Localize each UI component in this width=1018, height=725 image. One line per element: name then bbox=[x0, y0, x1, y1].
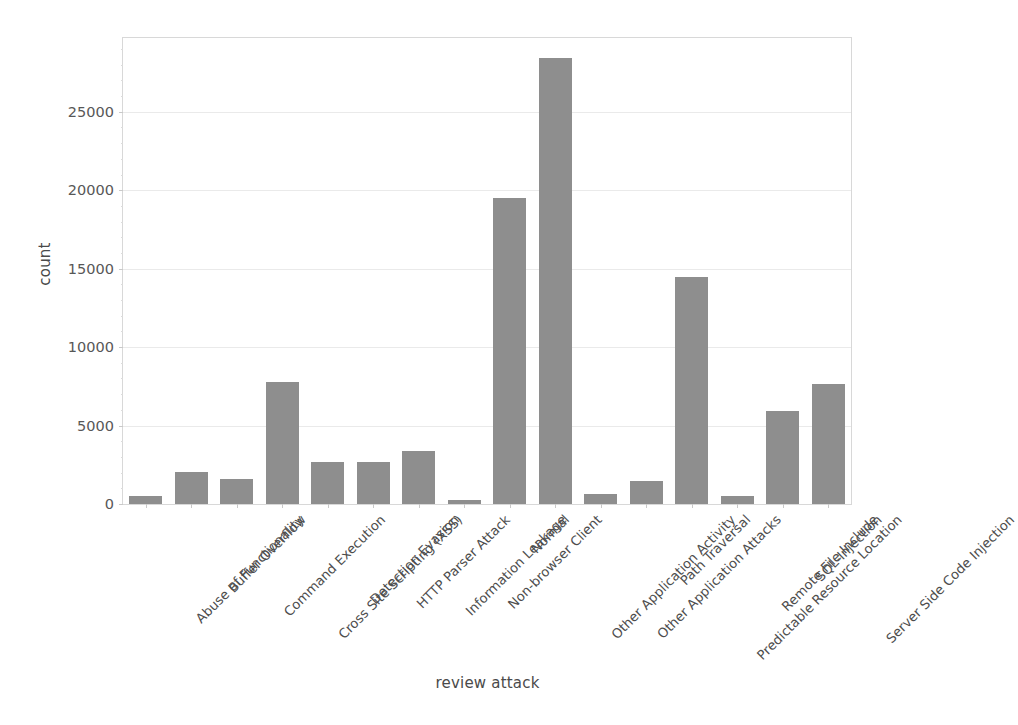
bar[interactable] bbox=[584, 494, 617, 504]
x-axis-tick-label-text: Buffer Overflow bbox=[225, 512, 309, 596]
y-axis-minor-tick bbox=[121, 253, 123, 254]
bar[interactable] bbox=[721, 496, 754, 504]
y-axis-minor-tick bbox=[121, 127, 123, 128]
y-axis-minor-tick bbox=[121, 159, 123, 160]
y-axis-tick-label: 5000 bbox=[77, 418, 114, 434]
x-axis-tick-label-text: Predictable Resource Location bbox=[754, 512, 905, 663]
bar[interactable] bbox=[129, 496, 162, 504]
bar[interactable] bbox=[357, 462, 390, 504]
y-axis-minor-tick bbox=[121, 49, 123, 50]
bar[interactable] bbox=[175, 472, 208, 504]
y-axis-tick-label: 15000 bbox=[68, 261, 114, 277]
x-axis-tick bbox=[646, 504, 647, 508]
x-axis-tick bbox=[828, 504, 829, 508]
y-axis-minor-tick bbox=[121, 143, 123, 144]
gridline bbox=[123, 190, 851, 191]
y-axis-minor-tick bbox=[121, 300, 123, 301]
x-axis-tick bbox=[328, 504, 329, 508]
gridline bbox=[123, 269, 851, 270]
x-axis-tick-label: HTTP Parser Attack bbox=[414, 512, 513, 611]
y-axis-tick-label: 10000 bbox=[68, 339, 114, 355]
y-axis-minor-tick bbox=[121, 237, 123, 238]
y-axis-minor-tick bbox=[121, 331, 123, 332]
y-axis-minor-tick bbox=[121, 96, 123, 97]
y-axis-minor-tick bbox=[121, 488, 123, 489]
y-axis-tick bbox=[119, 426, 123, 427]
y-axis-tick bbox=[119, 504, 123, 505]
x-axis-tick bbox=[464, 504, 465, 508]
x-axis-tick-label-text: Server Side Code Injection bbox=[883, 512, 1017, 646]
x-axis-title: review attack bbox=[120, 674, 855, 692]
y-axis-minor-tick bbox=[121, 284, 123, 285]
x-axis-tick bbox=[373, 504, 374, 508]
y-axis-minor-tick bbox=[121, 457, 123, 458]
y-axis-tick bbox=[119, 190, 123, 191]
y-axis-minor-tick bbox=[121, 378, 123, 379]
bar[interactable] bbox=[266, 382, 299, 504]
y-axis-tick bbox=[119, 347, 123, 348]
bar[interactable] bbox=[766, 411, 799, 504]
y-axis-tick-label: 0 bbox=[105, 496, 114, 512]
y-axis-minor-tick bbox=[121, 80, 123, 81]
x-axis-tick bbox=[237, 504, 238, 508]
x-axis-tick-label: Predictable Resource Location bbox=[754, 512, 905, 663]
x-axis-tick bbox=[737, 504, 738, 508]
x-axis-tick-label: Server Side Code Injection bbox=[883, 512, 1017, 646]
bar[interactable] bbox=[812, 384, 845, 504]
y-axis-title: count bbox=[36, 204, 54, 324]
bar[interactable] bbox=[493, 198, 526, 504]
x-axis-tick bbox=[601, 504, 602, 508]
y-axis-tick bbox=[119, 269, 123, 270]
y-axis-minor-tick bbox=[121, 441, 123, 442]
bar[interactable] bbox=[311, 462, 344, 504]
x-axis-tick bbox=[510, 504, 511, 508]
y-axis-minor-tick bbox=[121, 175, 123, 176]
bar[interactable] bbox=[402, 451, 435, 504]
y-axis-minor-tick bbox=[121, 363, 123, 364]
bar[interactable] bbox=[630, 481, 663, 504]
x-axis-tick bbox=[146, 504, 147, 508]
gridline bbox=[123, 112, 851, 113]
y-axis-minor-tick bbox=[121, 206, 123, 207]
x-axis-tick bbox=[419, 504, 420, 508]
y-axis-tick bbox=[119, 112, 123, 113]
gridline bbox=[123, 426, 851, 427]
y-axis-minor-tick bbox=[121, 316, 123, 317]
y-axis-tick-label: 25000 bbox=[68, 104, 114, 120]
x-axis-tick bbox=[191, 504, 192, 508]
plot-area: 0500010000150002000025000 bbox=[122, 37, 852, 505]
y-axis-minor-tick bbox=[121, 222, 123, 223]
x-axis-tick bbox=[692, 504, 693, 508]
bar[interactable] bbox=[539, 58, 572, 504]
x-axis-tick bbox=[783, 504, 784, 508]
y-axis-tick-label: 20000 bbox=[68, 182, 114, 198]
bar[interactable] bbox=[675, 277, 708, 505]
x-axis-tick bbox=[282, 504, 283, 508]
bar[interactable] bbox=[220, 479, 253, 504]
y-axis-minor-tick bbox=[121, 394, 123, 395]
gridline bbox=[123, 347, 851, 348]
y-axis-minor-tick bbox=[121, 410, 123, 411]
x-axis-tick-label-text: HTTP Parser Attack bbox=[414, 512, 513, 611]
x-axis-tick bbox=[555, 504, 556, 508]
y-axis-minor-tick bbox=[121, 65, 123, 66]
x-axis-tick-label: Buffer Overflow bbox=[225, 512, 309, 596]
y-axis-minor-tick bbox=[121, 473, 123, 474]
